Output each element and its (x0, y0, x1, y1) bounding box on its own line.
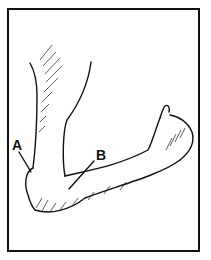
fist-line (170, 115, 193, 160)
label-a: A (12, 137, 22, 153)
upper-arm-back-line (30, 63, 37, 168)
forearm-top-line (65, 118, 160, 176)
fist-hatching (166, 128, 185, 150)
forearm-hatching (36, 182, 126, 212)
upper-arm-front-line (63, 62, 91, 176)
label-b-arrow (69, 161, 94, 189)
arm-illustration: A B (0, 0, 211, 260)
elbow-curve (26, 168, 35, 210)
upper-arm-hatching (39, 45, 62, 132)
label-b: B (96, 147, 106, 163)
forearm-bottom-line (35, 160, 180, 212)
label-a-arrow (19, 152, 31, 172)
thumb-line (160, 105, 169, 118)
